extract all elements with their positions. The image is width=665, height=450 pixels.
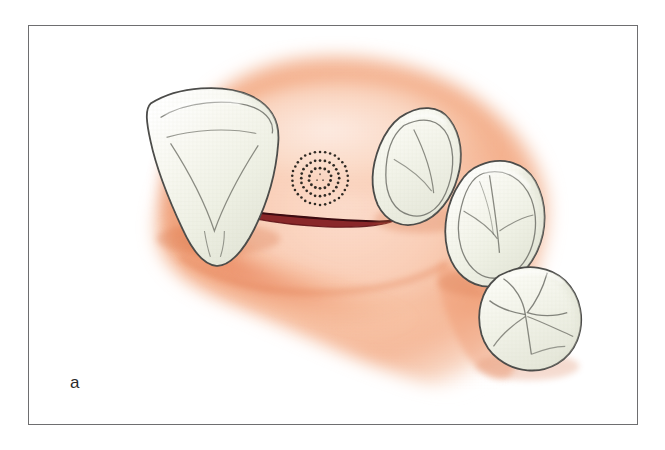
marker-dot: [294, 189, 297, 192]
marker-dot: [344, 165, 347, 168]
marker-center-dot: [322, 179, 324, 181]
marker-dot: [330, 174, 333, 177]
marker-dot: [341, 193, 344, 196]
marker-dot: [304, 200, 307, 203]
marker-dot: [319, 195, 322, 198]
marker-dot: [337, 158, 340, 161]
marker-dot: [310, 183, 313, 186]
marker-dot: [308, 179, 311, 182]
marker-dot: [323, 186, 326, 189]
marker-dot: [344, 189, 347, 192]
figure-root: a: [0, 0, 665, 450]
marker-dot: [346, 175, 349, 178]
marker-dot: [329, 179, 332, 182]
marker-dot: [319, 187, 322, 190]
marker-dot: [324, 194, 327, 197]
marker-dot: [319, 151, 322, 154]
marker-dot: [341, 161, 344, 164]
marker-dot: [346, 184, 349, 187]
marker-dot: [314, 203, 317, 206]
marker-dot: [309, 152, 312, 155]
marker-dot: [345, 170, 348, 173]
dental-illustration-canvas: [29, 26, 637, 424]
marker-dot: [300, 157, 303, 160]
marker-dot: [314, 167, 317, 170]
figure-frame: a: [28, 25, 638, 425]
marker-dot: [308, 175, 311, 178]
marker-dot: [297, 161, 300, 164]
marker-dot: [332, 164, 335, 167]
marker-dot: [323, 168, 326, 171]
marker-dot: [324, 151, 327, 154]
marker-dot: [333, 199, 336, 202]
marker-dot: [294, 165, 297, 168]
marker-dot: [314, 186, 317, 189]
marker-dot: [309, 192, 312, 195]
marker-dot: [324, 160, 327, 163]
marker-dot: [327, 183, 330, 186]
marker-dot: [328, 161, 331, 164]
marker-dot: [337, 181, 340, 184]
marker-dot: [314, 194, 317, 197]
marker-dot: [324, 203, 327, 206]
marker-dot: [327, 170, 330, 173]
marker-dot: [304, 154, 307, 157]
marker-dot: [338, 177, 341, 180]
marker-dot: [310, 170, 313, 173]
marker-dot: [306, 164, 309, 167]
marker-dot: [335, 186, 338, 189]
marker-dot: [314, 151, 317, 154]
marker-dot: [319, 167, 322, 170]
marker-dot: [347, 179, 350, 182]
marker-dot: [328, 193, 331, 196]
marker-dot: [329, 202, 332, 205]
marker-dot: [337, 172, 340, 175]
marker-dot: [300, 177, 303, 180]
marker-dot: [314, 159, 317, 162]
marker-dot: [291, 179, 294, 182]
marker-dot: [300, 172, 303, 175]
marker-dot: [334, 154, 337, 157]
marker-dot: [302, 186, 305, 189]
marker-dot: [309, 161, 312, 164]
marker-dot: [319, 204, 322, 207]
marker-dot: [338, 197, 341, 200]
panel-label: a: [70, 374, 80, 391]
marker-dot: [329, 152, 332, 155]
marker-dot: [292, 170, 295, 173]
marker-dot: [300, 196, 303, 199]
marker-dot: [335, 168, 338, 171]
marker-dot: [319, 159, 322, 162]
marker-center-dot: [319, 173, 321, 175]
marker-dot: [291, 175, 294, 178]
marker-dot: [305, 190, 308, 193]
marker-dot: [309, 202, 312, 205]
marker-dot: [332, 190, 335, 193]
marker-dot: [302, 168, 305, 171]
marker-center-dot: [316, 179, 318, 181]
marker-dot: [300, 182, 303, 185]
marker-dot: [292, 184, 295, 187]
marker-dot: [297, 193, 300, 196]
